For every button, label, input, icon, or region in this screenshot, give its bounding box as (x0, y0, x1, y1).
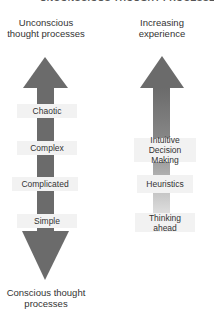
label-heuristics: Heuristics (137, 175, 193, 193)
label-intuitive-decision-making: Intuitive Decision Making (134, 138, 196, 162)
label-simple: Simple (17, 214, 77, 228)
label-complex: Complex (17, 141, 77, 155)
label-thinking-ahead: Thinking ahead (135, 213, 195, 232)
conscious-heading: Conscious thought processes (6, 287, 86, 309)
bidirectional-arrow-icon (22, 57, 69, 280)
label-chaotic: Chaotic (17, 104, 77, 118)
label-complicated: Complicated (12, 177, 78, 191)
